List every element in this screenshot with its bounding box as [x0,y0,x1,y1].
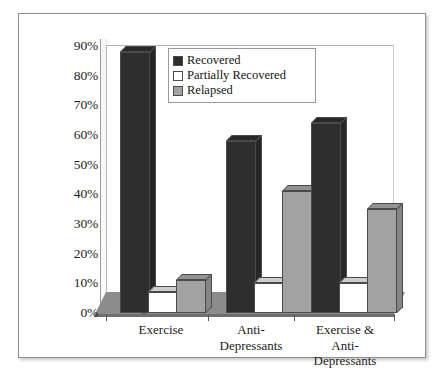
chart-legend: RecoveredPartially RecoveredRelapsed [168,48,316,103]
bar-1-1 [254,283,284,313]
x-axis-tick-mark [208,314,209,321]
x-axis-category-label: Exercise &Anti-Depressants [290,322,400,369]
x-axis-category-label-line: Anti- [290,338,400,354]
legend-item: Partially Recovered [173,68,310,83]
bar-front-face [311,123,341,313]
legend-item: Recovered [173,53,310,68]
bar-2-2 [367,209,397,313]
bar-chart: 0%10%20%30%40%50%60%70%80%90% ExerciseAn… [0,0,448,384]
bar-side-face [150,46,156,313]
bar-2-1 [339,283,369,313]
bar-1-2 [282,191,312,313]
x-axis-tick-mark [394,314,395,321]
legend-swatch-icon [173,56,183,66]
bar-side-face [206,274,212,313]
bar-front-face [120,52,150,313]
legend-swatch-icon [173,71,183,81]
x-axis-category-label-line: Exercise & [290,322,400,338]
bar-front-face [176,280,206,313]
bar-front-face [226,141,256,313]
bar-front-face [282,191,312,313]
bar-front-face [254,283,284,313]
bar-0-1 [148,292,178,313]
x-axis-tick-mark [106,314,107,321]
bar-1-0 [226,141,256,313]
x-axis-tick-mark [294,314,295,321]
bar-0-2 [176,280,206,313]
legend-swatch-icon [173,86,183,96]
bar-side-face [397,203,403,313]
bar-front-face [339,283,369,313]
bar-0-0 [120,52,150,313]
x-axis-category-label-line: Depressants [290,353,400,369]
bar-2-0 [311,123,341,313]
legend-item-label: Relapsed [187,84,233,97]
legend-item: Relapsed [173,83,310,98]
bar-front-face [148,292,178,313]
legend-item-label: Recovered [187,54,240,67]
legend-item-label: Partially Recovered [187,69,286,82]
bar-front-face [367,209,397,313]
